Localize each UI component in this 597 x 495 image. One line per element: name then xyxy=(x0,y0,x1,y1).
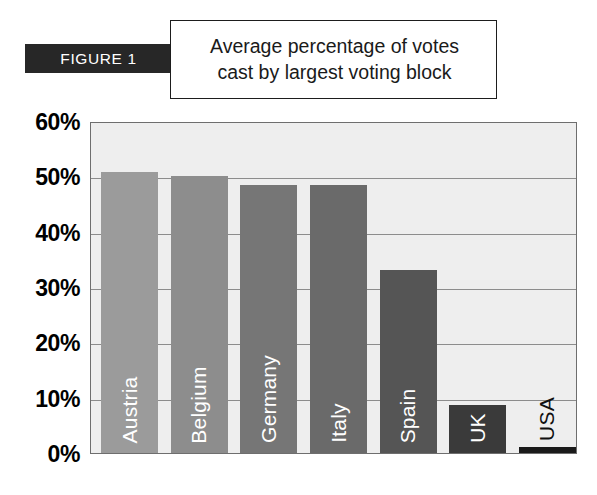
bar-label-usa: USA xyxy=(535,398,559,442)
figure-title-line-2: cast by largest voting block xyxy=(217,60,451,86)
bar-label-belgium: Belgium xyxy=(187,366,211,443)
y-axis-tick-label: 0% xyxy=(48,441,80,468)
bar-label-spain: Spain xyxy=(396,388,420,443)
figure-number-badge: FIGURE 1 xyxy=(25,44,172,73)
bar-label-germany: Germany xyxy=(257,355,281,443)
figure-number-label: FIGURE 1 xyxy=(60,50,136,68)
y-axis-tick-label: 10% xyxy=(35,385,80,412)
caption-strip xyxy=(18,474,278,484)
figure-title-box: Average percentage of votes cast by larg… xyxy=(170,20,497,99)
figure-title-line-1: Average percentage of votes xyxy=(210,34,459,60)
bar-chart: 0%10%20%30%40%50%60% AustriaBelgiumGerma… xyxy=(0,112,597,472)
y-axis-tick-label: 50% xyxy=(35,164,80,191)
y-axis: 0%10%20%30%40%50%60% xyxy=(0,112,86,472)
y-axis-tick-label: 60% xyxy=(35,109,80,136)
y-axis-tick-label: 30% xyxy=(35,275,80,302)
bars-layer: AustriaBelgiumGermanyItalySpainUKUSA xyxy=(91,123,576,453)
figure-header: FIGURE 1 Average percentage of votes cas… xyxy=(0,0,597,112)
bar-label-austria: Austria xyxy=(118,376,142,443)
y-axis-tick-label: 40% xyxy=(35,219,80,246)
bar-usa xyxy=(519,447,576,453)
plot-area: AustriaBelgiumGermanyItalySpainUKUSA xyxy=(90,122,577,454)
bar-label-italy: Italy xyxy=(327,403,351,443)
bar-label-uk: UK xyxy=(466,413,490,443)
y-axis-tick-label: 20% xyxy=(35,330,80,357)
